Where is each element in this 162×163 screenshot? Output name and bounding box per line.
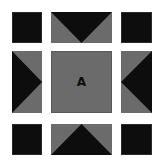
edge-tile-right[interactable] (121, 51, 152, 113)
triangle-right-icon (12, 51, 42, 113)
edge-tile-left[interactable] (12, 51, 42, 113)
corner-tile-bottom-right[interactable] (121, 124, 152, 155)
center-tile[interactable]: A (51, 51, 112, 113)
edge-tile-bottom[interactable] (51, 124, 112, 155)
center-label: A (52, 75, 111, 89)
corner-tile-top-left[interactable] (12, 12, 42, 43)
triangle-up-icon (51, 124, 112, 155)
triangle-down-icon (51, 12, 112, 43)
corner-tile-bottom-left[interactable] (12, 124, 42, 155)
edge-tile-top[interactable] (51, 12, 112, 43)
triangle-left-icon (121, 51, 152, 113)
corner-tile-top-right[interactable] (121, 12, 152, 43)
